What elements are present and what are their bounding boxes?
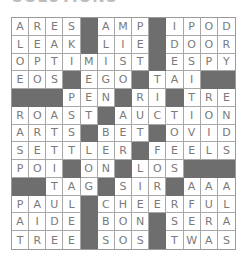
letter-cell[interactable]: S [46,71,63,89]
letter-cell[interactable]: L [132,160,149,178]
letter-cell[interactable]: P [12,160,29,178]
letter-cell[interactable]: T [46,142,63,160]
letter-cell[interactable]: S [63,18,80,36]
letter-cell[interactable]: U [132,107,149,125]
letter-cell[interactable]: A [218,178,235,196]
letter-cell[interactable]: T [12,231,29,249]
letter-cell[interactable]: D [218,18,235,36]
letter-cell[interactable]: I [115,36,132,54]
letter-cell[interactable]: K [63,36,80,54]
letter-cell[interactable]: T [132,125,149,143]
letter-cell[interactable]: R [29,125,46,143]
letter-cell[interactable]: O [29,160,46,178]
letter-cell[interactable]: A [46,36,63,54]
letter-cell[interactable]: S [63,125,80,143]
letter-cell[interactable]: E [12,71,29,89]
letter-cell[interactable]: O [115,213,132,231]
letter-cell[interactable]: R [115,142,132,160]
letter-cell[interactable]: S [132,231,149,249]
letter-cell[interactable]: D [166,36,183,54]
letter-cell[interactable]: S [12,142,29,160]
letter-cell[interactable]: C [98,196,115,214]
letter-cell[interactable]: E [218,89,235,107]
letter-cell[interactable]: I [46,160,63,178]
letter-cell[interactable]: T [46,125,63,143]
letter-cell[interactable]: C [149,107,166,125]
letter-cell[interactable]: E [46,18,63,36]
letter-cell[interactable]: O [201,36,218,54]
letter-cell[interactable]: P [132,18,149,36]
letter-cell[interactable]: I [29,213,46,231]
letter-cell[interactable]: N [218,107,235,125]
letter-cell[interactable]: L [12,36,29,54]
letter-cell[interactable]: N [132,213,149,231]
letter-cell[interactable]: W [184,231,201,249]
letter-cell[interactable]: H [115,196,132,214]
letter-cell[interactable]: R [201,89,218,107]
letter-cell[interactable]: P [184,18,201,36]
letter-cell[interactable]: O [12,54,29,72]
letter-cell[interactable]: S [98,231,115,249]
letter-cell[interactable]: I [132,178,149,196]
letter-cell[interactable]: A [201,231,218,249]
letter-cell[interactable]: E [166,54,183,72]
letter-cell[interactable]: M [115,18,132,36]
letter-cell[interactable]: A [29,196,46,214]
letter-cell[interactable]: A [63,178,80,196]
letter-cell[interactable]: S [115,54,132,72]
letter-cell[interactable]: A [12,18,29,36]
letter-cell[interactable]: V [184,125,201,143]
letter-cell[interactable]: I [166,18,183,36]
letter-cell[interactable]: R [166,196,183,214]
letter-cell[interactable]: L [201,142,218,160]
letter-cell[interactable]: P [29,54,46,72]
letter-cell[interactable]: N [98,89,115,107]
letter-cell[interactable]: E [63,231,80,249]
letter-cell[interactable]: R [149,178,166,196]
letter-cell[interactable]: E [115,125,132,143]
letter-cell[interactable]: R [201,213,218,231]
letter-cell[interactable]: L [63,196,80,214]
letter-cell[interactable]: S [218,142,235,160]
letter-cell[interactable]: S [184,54,201,72]
letter-cell[interactable]: E [29,36,46,54]
letter-cell[interactable]: S [218,231,235,249]
letter-cell[interactable]: D [218,125,235,143]
letter-cell[interactable]: R [29,231,46,249]
letter-cell[interactable]: A [218,213,235,231]
letter-cell[interactable]: R [29,18,46,36]
letter-cell[interactable]: T [166,231,183,249]
letter-cell[interactable]: E [81,89,98,107]
letter-cell[interactable]: S [166,160,183,178]
letter-cell[interactable]: I [98,54,115,72]
letter-cell[interactable]: U [201,196,218,214]
letter-cell[interactable]: A [115,107,132,125]
letter-cell[interactable]: L [98,36,115,54]
letter-cell[interactable]: R [218,36,235,54]
letter-cell[interactable]: O [166,125,183,143]
letter-cell[interactable]: D [46,213,63,231]
letter-cell[interactable]: G [98,71,115,89]
letter-cell[interactable]: O [115,71,132,89]
letter-cell[interactable]: I [184,107,201,125]
letter-cell[interactable]: I [63,54,80,72]
letter-cell[interactable]: O [149,160,166,178]
letter-cell[interactable]: E [81,71,98,89]
letter-cell[interactable]: L [81,142,98,160]
letter-cell[interactable]: O [184,36,201,54]
letter-cell[interactable]: A [12,213,29,231]
letter-cell[interactable]: A [166,71,183,89]
letter-cell[interactable]: S [166,213,183,231]
letter-cell[interactable]: U [46,196,63,214]
letter-cell[interactable]: T [184,89,201,107]
letter-cell[interactable]: A [12,125,29,143]
letter-cell[interactable]: E [132,196,149,214]
letter-cell[interactable]: R [132,89,149,107]
letter-cell[interactable]: R [12,107,29,125]
letter-cell[interactable]: A [98,18,115,36]
letter-cell[interactable]: T [166,107,183,125]
letter-cell[interactable]: A [184,178,201,196]
letter-cell[interactable]: A [46,107,63,125]
letter-cell[interactable]: O [201,107,218,125]
letter-cell[interactable]: E [98,142,115,160]
